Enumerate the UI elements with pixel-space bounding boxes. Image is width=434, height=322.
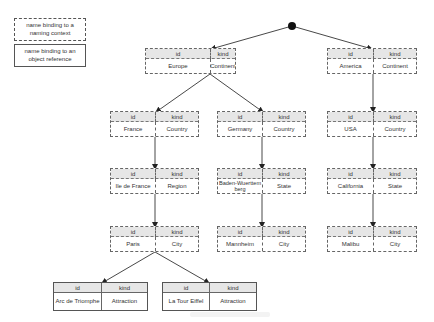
legend-object-reference: name binding to an object reference: [14, 44, 86, 67]
node-california: idkind CaliforniaState: [327, 168, 417, 194]
node-id: France: [111, 122, 156, 136]
id-header: id: [328, 169, 374, 179]
node-id: Europe: [146, 59, 211, 73]
id-header: id: [218, 112, 263, 122]
edge-root-america: [292, 26, 372, 49]
node-id: Arc de Triomphe: [54, 293, 102, 310]
kind-header: kind: [210, 283, 256, 293]
id-header: id: [218, 169, 263, 179]
kind-header: kind: [211, 49, 235, 59]
node-id: America: [328, 59, 374, 73]
kind-header: kind: [374, 112, 416, 122]
node-kind: City: [156, 237, 198, 251]
kind-header: kind: [374, 227, 416, 237]
root-node-dot: [288, 22, 296, 30]
id-header: id: [328, 49, 374, 59]
node-kind: State: [374, 179, 416, 193]
node-arc-de-triomphe: idkind Arc de TriompheAttraction: [53, 282, 148, 311]
edge-europe-france: [156, 74, 210, 112]
id-header: id: [163, 283, 210, 293]
edge-europe-germany: [210, 74, 263, 112]
edge-paris-eiffel: [155, 252, 209, 283]
node-mannheim: idkind MannheimCity: [217, 226, 306, 252]
kind-header: kind: [156, 169, 198, 179]
node-kind: Attraction: [102, 293, 147, 310]
node-kind: Country: [156, 122, 198, 136]
node-europe: idkind EuropeContinent: [145, 48, 236, 74]
node-id: La Tour Eiffel: [163, 293, 210, 310]
kind-header: kind: [263, 227, 305, 237]
node-id: Malibu: [328, 237, 374, 251]
id-header: id: [111, 227, 156, 237]
node-usa: idkind USACountry: [327, 111, 417, 137]
node-germany: idkind GermanyCountry: [217, 111, 306, 137]
node-kind: State: [263, 179, 305, 193]
kind-header: kind: [156, 227, 198, 237]
node-id: Paris: [111, 237, 156, 251]
node-kind: Attraction: [210, 293, 256, 310]
node-id: USA: [328, 122, 374, 136]
id-header: id: [218, 227, 263, 237]
node-kind: City: [374, 237, 416, 251]
kind-header: kind: [263, 112, 305, 122]
node-ile-de-france: idkind Ile de FranceRegion: [110, 168, 199, 194]
node-id: Mannheim: [218, 237, 263, 251]
id-header: id: [146, 49, 211, 59]
node-id: California: [328, 179, 374, 193]
kind-header: kind: [102, 283, 147, 293]
node-kind: Country: [263, 122, 305, 136]
legend-naming-context: name binding to a naming context: [14, 18, 86, 41]
kind-header: kind: [156, 112, 198, 122]
node-america: idkind AmericaContinent: [327, 48, 417, 74]
node-paris: idkind ParisCity: [110, 226, 199, 252]
node-kind: Region: [156, 179, 198, 193]
id-header: id: [328, 112, 374, 122]
node-kind: Continent: [211, 59, 235, 73]
node-id: Germany: [218, 122, 263, 136]
id-header: id: [111, 169, 156, 179]
node-malibu: idkind MalibuCity: [327, 226, 417, 252]
node-id: Baden-Wuerttemberg: [218, 179, 263, 193]
id-header: id: [54, 283, 102, 293]
node-baden-wuerttemberg: idkind Baden-WuerttembergState: [217, 168, 306, 194]
node-id: Ile de France: [111, 179, 156, 193]
node-france: idkind FranceCountry: [110, 111, 199, 137]
edge-root-europe: [211, 26, 292, 49]
id-header: id: [328, 227, 374, 237]
kind-header: kind: [374, 49, 416, 59]
figure-caption-faded: [190, 312, 270, 317]
node-kind: City: [263, 237, 305, 251]
node-kind: Country: [374, 122, 416, 136]
kind-header: kind: [263, 169, 305, 179]
node-kind: Continent: [374, 59, 416, 73]
node-la-tour-eiffel: idkind La Tour EiffelAttraction: [162, 282, 257, 311]
id-header: id: [111, 112, 156, 122]
edge-paris-arc: [102, 252, 155, 283]
kind-header: kind: [374, 169, 416, 179]
